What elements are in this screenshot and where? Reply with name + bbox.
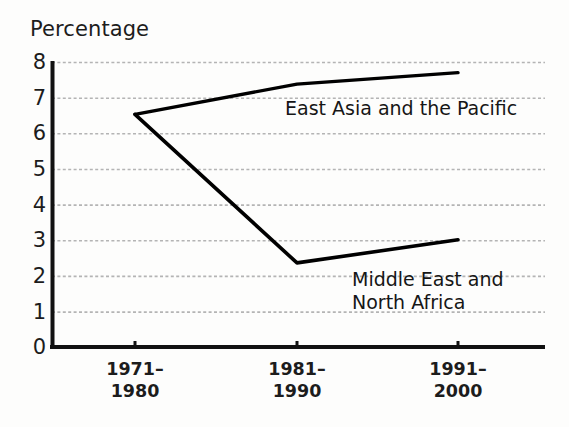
- series-label-line2: North Africa: [352, 291, 504, 314]
- y-tick-7: 7: [26, 88, 46, 109]
- x-tick-line2: 2000: [398, 380, 518, 402]
- y-tick-8: 8: [26, 52, 46, 73]
- line-chart: Percentage 8 7 6 5: [0, 0, 569, 427]
- series-label-line1: East Asia and the Pacific: [285, 97, 517, 120]
- series-label-east-asia-and-the-pacific: East Asia and the Pacific: [285, 97, 517, 120]
- series-label-middle-east-and-north-africa: Middle East and North Africa: [352, 268, 504, 314]
- x-tick-1981-1990: 1981– 1990: [237, 358, 357, 403]
- y-tick-5: 5: [26, 159, 46, 180]
- x-tick-line1: 1981–: [237, 358, 357, 380]
- series-label-line1: Middle East and: [352, 268, 504, 291]
- x-tick-1971-1980: 1971– 1980: [75, 358, 195, 403]
- x-tick-line1: 1971–: [75, 358, 195, 380]
- x-tick-1991-2000: 1991– 2000: [398, 358, 518, 403]
- x-tick-line2: 1990: [237, 380, 357, 402]
- x-tick-line2: 1980: [75, 380, 195, 402]
- y-tick-0: 0: [26, 337, 46, 358]
- y-tick-6: 6: [26, 123, 46, 144]
- x-tick-line1: 1991–: [398, 358, 518, 380]
- y-tick-3: 3: [26, 230, 46, 251]
- y-tick-2: 2: [26, 266, 46, 287]
- y-tick-4: 4: [26, 195, 46, 216]
- y-tick-1: 1: [26, 302, 46, 323]
